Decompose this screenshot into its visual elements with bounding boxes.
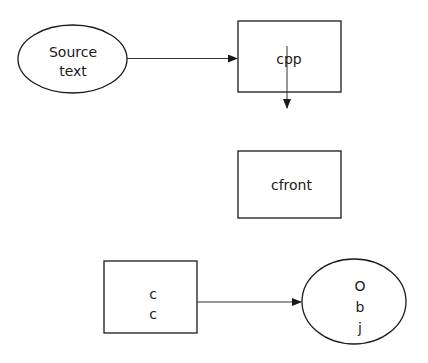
- source-line-1: Source: [32, 43, 114, 62]
- cpp-label: cpp: [259, 50, 319, 68]
- cfront-label: cfront: [249, 176, 334, 194]
- obj-line-3: j: [340, 318, 380, 339]
- obj-line-2: b: [340, 297, 380, 318]
- obj-line-1: O: [340, 276, 380, 297]
- cc-line-2: c: [138, 304, 168, 324]
- obj-label: O b j e: [340, 276, 380, 344]
- source-line-2: text: [32, 62, 114, 81]
- cc-line-1: c: [138, 284, 168, 304]
- obj-line-4: e: [340, 339, 380, 344]
- cc-label: c c: [138, 284, 168, 324]
- source-text-label: Source text: [32, 43, 114, 81]
- obj-label-clip: O b j e: [340, 276, 380, 344]
